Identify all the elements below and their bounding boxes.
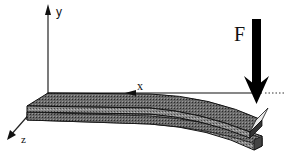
force-label: F [234,24,245,44]
x-axis-label: x [137,80,143,92]
z-axis-label: z [21,134,26,145]
diagram-canvas: y x z F [0,0,288,158]
y-axis-arrow-icon [45,4,51,15]
force-arrow [244,19,269,104]
y-axis-label: y [56,6,62,18]
y-axis [45,4,51,93]
